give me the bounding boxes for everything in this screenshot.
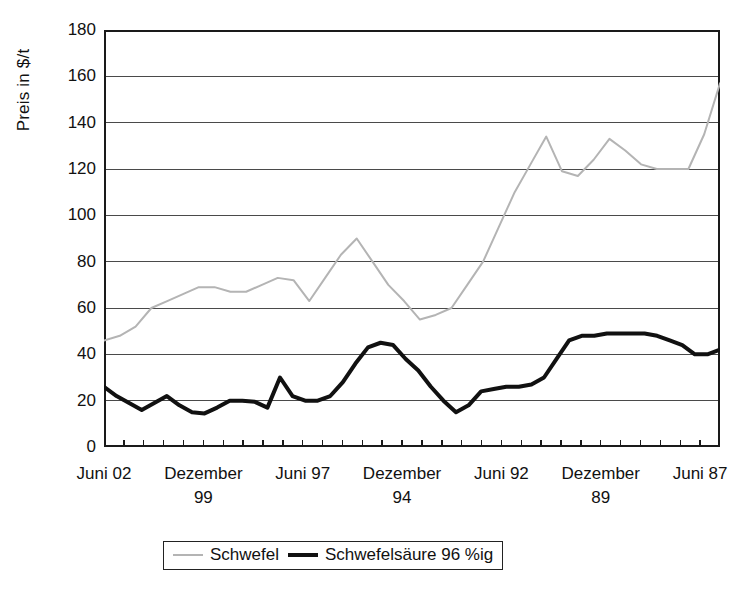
y-axis-tick-labels: 180160140120100806040200 xyxy=(36,30,96,447)
x-tick-label-5: Dezember89 xyxy=(562,462,640,510)
legend-item-1[interactable]: Schwefelsäure 96 %ig xyxy=(288,546,493,564)
x-tick-label-line1: Dezember xyxy=(363,464,441,483)
x-tick-label-1: Dezember99 xyxy=(164,462,242,510)
y-tick-label-80: 80 xyxy=(40,255,96,269)
x-tick-label-line2: 99 xyxy=(164,486,242,510)
y-tick-label-100: 100 xyxy=(40,208,96,222)
y-tick-label-160: 160 xyxy=(40,69,96,83)
legend-swatch-line-icon xyxy=(288,553,318,557)
y-tick-label-120: 120 xyxy=(40,162,96,176)
x-tick-label-4: Juni 92 xyxy=(474,462,529,486)
y-tick-label-20: 20 xyxy=(40,394,96,408)
chart-figure: Preis in $/t 180160140120100806040200 Ju… xyxy=(0,0,747,598)
legend-label: Schwefelsäure 96 %ig xyxy=(325,546,493,564)
x-tick-label-line1: Dezember xyxy=(164,464,242,483)
x-tick-label-line2: 94 xyxy=(363,486,441,510)
legend-swatch-line-icon xyxy=(173,554,203,556)
x-tick-label-line2: 89 xyxy=(562,486,640,510)
x-tick-label-line1: Juni 87 xyxy=(673,464,728,483)
x-tick-label-2: Juni 97 xyxy=(275,462,330,486)
y-tick-label-140: 140 xyxy=(40,116,96,130)
x-tick-label-0: Juni 02 xyxy=(77,462,132,486)
y-axis-title: Preis in $/t xyxy=(14,10,34,170)
x-tick-label-line1: Dezember xyxy=(562,464,640,483)
plot-area xyxy=(104,30,720,447)
y-tick-label-180: 180 xyxy=(40,23,96,37)
y-tick-label-40: 40 xyxy=(40,347,96,361)
plot-svg xyxy=(104,30,720,447)
series-line-0 xyxy=(104,83,720,340)
series-line-1 xyxy=(104,333,720,413)
x-tick-label-6: Juni 87 xyxy=(673,462,728,486)
y-tick-label-0: 0 xyxy=(40,440,96,454)
y-tick-label-60: 60 xyxy=(40,301,96,315)
x-axis-tick-labels: Juni 02Dezember99Juni 97Dezember94Juni 9… xyxy=(0,462,747,522)
x-tick-label-line1: Juni 97 xyxy=(275,464,330,483)
x-tick-label-3: Dezember94 xyxy=(363,462,441,510)
x-tick-label-line1: Juni 92 xyxy=(474,464,529,483)
legend-label: Schwefel xyxy=(210,546,279,564)
x-tick-label-line1: Juni 02 xyxy=(77,464,132,483)
legend-item-0[interactable]: Schwefel xyxy=(173,546,279,564)
chart-legend: SchwefelSchwefelsäure 96 %ig xyxy=(163,541,503,570)
